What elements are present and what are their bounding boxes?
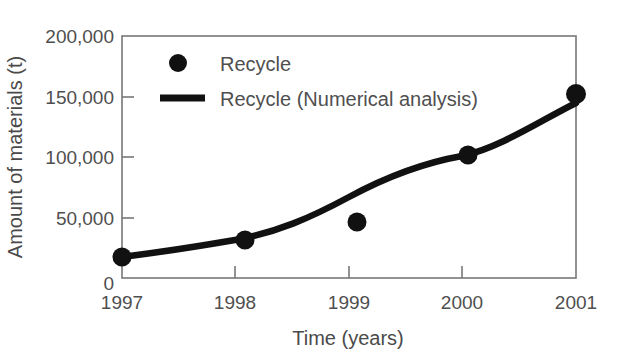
- data-point-1997: [113, 248, 132, 267]
- recycle-data-markers: [113, 84, 587, 267]
- y-tick-label-100000: 100,000: [45, 147, 114, 168]
- data-point-1998: [236, 231, 255, 250]
- y-tick-label-150000: 150,000: [45, 87, 114, 108]
- x-axis-title: Time (years): [292, 327, 403, 349]
- legend-label-recycle: Recycle: [220, 53, 291, 75]
- x-axis-ticks: [235, 266, 462, 278]
- legend-marker-circle-icon: [169, 54, 187, 72]
- x-tick-label-1997: 1997: [101, 292, 143, 313]
- y-tick-label-200000: 200,000: [45, 26, 114, 47]
- recycle-line-chart: 200,000 150,000 100,000 50,000 0 1997 19…: [0, 0, 620, 364]
- data-point-1999: [348, 213, 367, 232]
- y-axis-title: Amount of materials (t): [4, 56, 26, 258]
- x-tick-label-1998: 1998: [214, 292, 256, 313]
- y-tick-label-50000: 50,000: [56, 208, 114, 229]
- x-tick-label-2001: 2001: [555, 292, 597, 313]
- data-point-2000: [459, 146, 478, 165]
- chart-legend: Recycle Recycle (Numerical analysis): [160, 53, 478, 110]
- data-point-2001: [566, 84, 586, 104]
- plot-frame: [122, 36, 576, 278]
- y-axis-ticks: [122, 97, 134, 218]
- legend-label-recycle-numerical: Recycle (Numerical analysis): [220, 88, 478, 110]
- chart-figure: 200,000 150,000 100,000 50,000 0 1997 19…: [0, 0, 620, 364]
- y-tick-label-0: 0: [103, 273, 114, 294]
- x-tick-label-1999: 1999: [328, 292, 370, 313]
- numerical-analysis-curve: [122, 103, 576, 257]
- x-tick-label-2000: 2000: [441, 292, 483, 313]
